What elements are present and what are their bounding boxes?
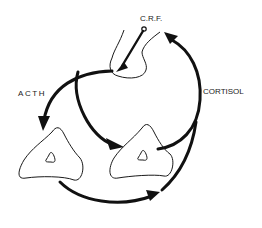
bottom-loop-arrowhead — [146, 190, 160, 201]
cortisol-label: CORTISOL — [203, 87, 244, 96]
crf-arrow — [122, 31, 143, 66]
crf-arrowhead — [116, 62, 128, 72]
crf-label: C.R.F. — [140, 14, 162, 23]
acth-label: ACTH — [18, 89, 46, 98]
hpa-axis-diagram: C.R.F. ACTH CORTISOL — [0, 0, 262, 228]
acth-arrowhead — [38, 116, 50, 131]
adrenal-left-outline — [19, 128, 83, 180]
adrenal-left-core — [46, 153, 55, 163]
bottom-loop-arrow — [60, 182, 152, 202]
hypothalamus-to-adrenal-arrowhead — [106, 138, 124, 150]
hypothalamus-to-adrenal-arrow — [76, 72, 112, 144]
right-loop-connector — [162, 122, 196, 190]
adrenal-right-core — [138, 151, 147, 161]
